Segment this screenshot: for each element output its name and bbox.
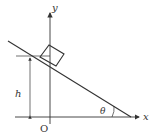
- diagram-svg: y x O h θ: [0, 0, 161, 140]
- angle-label: θ: [100, 106, 106, 116]
- incline-diagram: y x O h θ: [0, 0, 161, 140]
- height-label: h: [15, 88, 21, 99]
- y-axis-label: y: [51, 2, 58, 13]
- angle-arc: [112, 106, 114, 117]
- incline-line: [8, 41, 131, 117]
- x-axis-label: x: [143, 111, 149, 122]
- origin-label: O: [40, 123, 48, 134]
